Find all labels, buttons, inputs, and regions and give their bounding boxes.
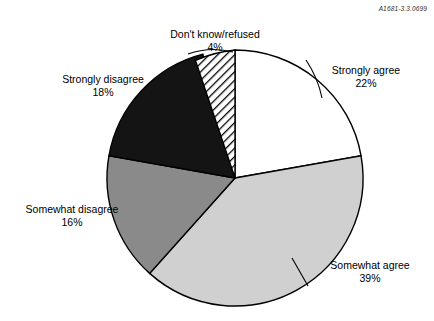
pie-label-strongly-agree-value: 22% (311, 77, 421, 90)
pie-label-somewhat-disagree-value: 16% (8, 216, 136, 229)
pie-label-dont-know-refused: Don't know/refused 4% (150, 28, 280, 54)
pie-chart-figure: A1681-3.3.0699 Don't know/refused 4% Str… (0, 0, 434, 321)
pie-label-strongly-disagree-value: 18% (48, 86, 158, 99)
pie-label-strongly-agree: Strongly agree 22% (311, 64, 421, 90)
pie-label-somewhat-agree-name: Somewhat agree (311, 259, 429, 272)
pie-label-strongly-disagree: Strongly disagree 18% (48, 73, 158, 99)
pie-label-somewhat-disagree: Somewhat disagree 16% (8, 203, 136, 229)
pie-label-somewhat-agree: Somewhat agree 39% (311, 259, 429, 285)
pie-label-dont-know-refused-value: 4% (150, 41, 280, 54)
pie-label-dont-know-refused-name: Don't know/refused (150, 28, 280, 41)
pie-label-somewhat-agree-value: 39% (311, 272, 429, 285)
pie-label-somewhat-disagree-name: Somewhat disagree (8, 203, 136, 216)
pie-label-strongly-agree-name: Strongly agree (311, 64, 421, 77)
pie-label-strongly-disagree-name: Strongly disagree (48, 73, 158, 86)
